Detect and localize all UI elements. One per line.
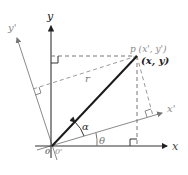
origin-label: 0 xyxy=(45,147,50,156)
point-primed-label: p (x', y') xyxy=(130,44,167,54)
alpha-label: α xyxy=(82,121,89,132)
origin-prime-label: 0' xyxy=(55,147,62,156)
rotation-diagram: y y' x x' p (x', y') (x, y) r α θ 0 0' xyxy=(0,0,188,175)
radius-label: r xyxy=(85,73,91,84)
point-original-label: (x, y) xyxy=(141,55,169,67)
x-axis-label: x xyxy=(172,140,179,153)
theta-arc xyxy=(96,133,97,146)
right-angle-marker-y xyxy=(51,56,58,63)
y-axis-label: y xyxy=(46,10,54,23)
theta-label: θ xyxy=(99,135,105,146)
x-prime-axis-label: x' xyxy=(167,103,175,114)
right-angle-marker-x-prime xyxy=(145,109,151,117)
y-prime-axis-label: y' xyxy=(7,22,16,33)
right-angle-marker-x xyxy=(130,139,137,146)
